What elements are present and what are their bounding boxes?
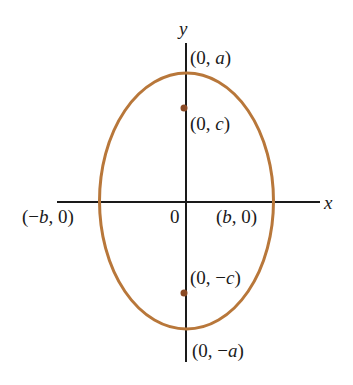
origin-label: 0 <box>170 206 180 227</box>
lower-focus-point <box>181 290 188 297</box>
y-axis-label: y <box>177 18 188 39</box>
lower-focus-label: (0, −c) <box>190 267 241 289</box>
left-vertex-label: (−b, 0) <box>22 206 74 228</box>
ellipse-diagram: y x 0 (0, a) (0, c) (−b, 0) (b, 0) (0, −… <box>0 0 353 385</box>
upper-focus-point <box>181 105 188 112</box>
bottom-vertex-label: (0, −a) <box>192 340 244 362</box>
x-axis-label: x <box>323 192 333 213</box>
top-vertex-label: (0, a) <box>190 47 231 69</box>
upper-focus-label: (0, c) <box>190 113 230 135</box>
right-vertex-label: (b, 0) <box>216 206 257 228</box>
